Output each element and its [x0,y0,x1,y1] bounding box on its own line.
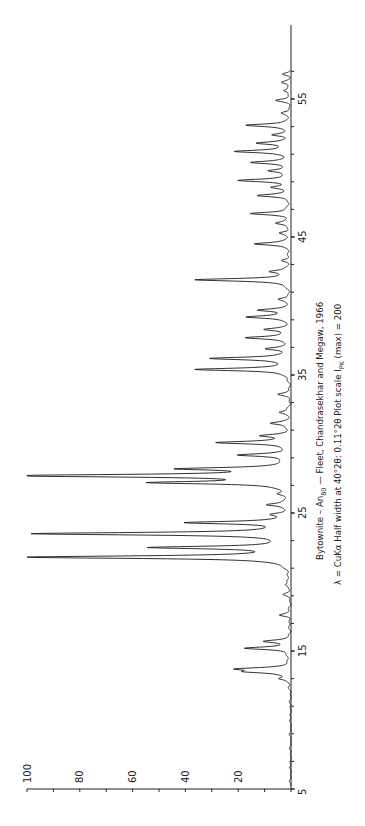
intensity-tick-label: 20 [233,770,244,783]
caption-line-1: Bytownite – An80 — Fleet, Chandrasekhar … [315,302,328,560]
two-theta-tick-label: 55 [297,92,308,105]
intensity-tick-label: 40 [180,770,191,783]
intensity-tick-label: 80 [74,770,85,783]
two-theta-axis: 51525354555 [291,25,308,795]
two-theta-tick-label: 5 [297,789,308,795]
diffraction-trace [27,70,291,786]
intensity-tick-label: 60 [127,770,138,783]
intensity-tick-label: 100 [22,764,33,783]
chart-caption: Bytownite – An80 — Fleet, Chandrasekhar … [315,302,346,585]
intensity-axis: 20406080100 [22,764,292,792]
two-theta-tick-label: 35 [297,368,308,381]
caption-line-2: λ = CuKα Half width at 40°2θ: 0.11°2θ Pl… [333,304,346,585]
two-theta-tick-label: 45 [297,230,308,243]
two-theta-tick-label: 15 [297,644,308,657]
two-theta-tick-label: 25 [297,506,308,519]
diffraction-chart: 20406080100 51525354555 Bytownite – An80… [0,0,365,826]
